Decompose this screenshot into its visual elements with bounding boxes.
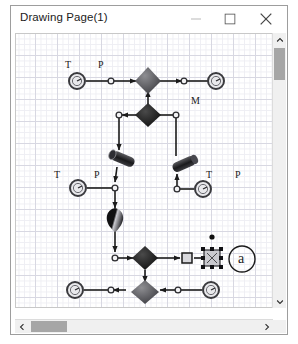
label-t-2: T [54,170,60,180]
node-circle-4[interactable] [195,181,211,197]
vertical-scrollbar-thumb[interactable] [274,48,285,80]
chevron-right-icon [264,323,269,330]
diamond-layer[interactable] [131,67,161,304]
label-t-3: T [206,170,212,180]
scroll-left-button[interactable] [15,320,28,333]
diamond-dark-1[interactable] [135,103,161,127]
window-titlebar: Drawing Page(1) [11,6,287,32]
maximize-button[interactable] [213,6,247,32]
scroll-up-button[interactable] [273,33,286,46]
chevron-up-icon [276,37,283,42]
node-circle-1[interactable] [69,73,85,89]
junction-7[interactable] [174,186,180,192]
junction-3[interactable] [181,78,187,84]
label-p-1: P [98,60,104,70]
dot-marker [209,234,214,239]
node-circle-2[interactable] [208,73,224,89]
label-annotation-a: a [238,252,244,266]
junction-8[interactable] [108,287,114,293]
label-p-3: P [235,170,241,180]
drawing-canvas[interactable]: T P M T P T P a [15,33,273,308]
junction-5[interactable] [112,185,118,191]
node-circle-6[interactable] [203,282,219,298]
label-t-1: T [65,60,71,70]
page-title: Drawing Page(1) [20,11,108,23]
junction-1[interactable] [108,78,114,84]
close-icon [260,13,272,25]
cylinder-1[interactable] [107,149,136,168]
diamond-light-1[interactable] [135,67,161,94]
scroll-right-button[interactable] [260,320,273,333]
drawing-window: Drawing Page(1) [10,5,288,335]
connector-10 [115,167,117,182]
vertical-scrollbar[interactable] [272,33,286,308]
junction-2[interactable] [116,112,122,118]
diamond-light-2[interactable] [131,280,159,304]
junction-4[interactable] [173,112,179,118]
junction-9[interactable] [175,287,181,293]
close-button[interactable] [249,6,283,32]
node-circle-3[interactable] [70,180,86,196]
scrollbar-corner [273,320,286,333]
cylinder-2[interactable] [171,153,199,173]
gateway-square[interactable] [182,253,192,263]
node-circle-5[interactable] [67,282,83,298]
minimize-button[interactable] [179,6,213,32]
label-p-2: P [94,170,100,180]
diamond-dark-2[interactable] [132,246,158,270]
cone-funnel[interactable] [107,208,123,232]
horizontal-scrollbar-thumb[interactable] [31,321,67,332]
horizontal-scrollbar[interactable] [15,319,273,333]
cylinder-layer[interactable] [107,149,199,174]
scroll-down-button[interactable] [273,295,286,308]
label-m: M [191,96,200,106]
chevron-left-icon [19,323,24,330]
maximize-icon [225,14,236,25]
junction-6[interactable] [112,255,118,261]
chevron-down-icon [276,299,283,304]
selected-element[interactable] [201,247,223,269]
minimize-icon [191,14,202,25]
